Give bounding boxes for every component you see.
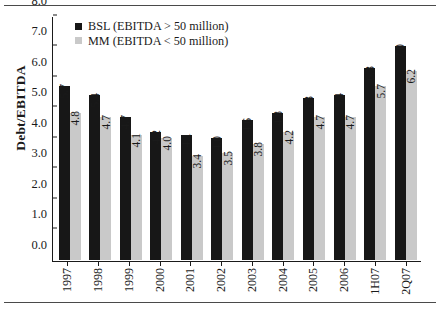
y-axis-tick-label: 6.0: [31, 54, 53, 69]
bar-value-label: 3.4: [186, 147, 197, 161]
x-axis-tick-label: 2004: [275, 268, 290, 292]
x-axis-tick: 2Q07: [390, 262, 421, 312]
x-axis-tick-mark: [375, 262, 376, 266]
x-axis-tick-mark: [283, 262, 284, 266]
bar-groups: 5.74.85.44.74.74.14.24.04.13.44.03.54.63…: [54, 17, 421, 260]
y-axis-tick-label: 0.0: [31, 237, 53, 252]
bar: 5.7: [375, 86, 386, 260]
legend-swatch-icon: [75, 23, 82, 30]
x-axis-tick-label: 1H07: [367, 268, 382, 295]
x-axis-tick-mark: [344, 262, 345, 266]
x-axis-tick-mark: [98, 262, 99, 266]
bar: 4.7: [345, 117, 356, 260]
y-axis-tick-label: 1.0: [31, 207, 53, 222]
bar-group: 5.44.7: [85, 17, 116, 260]
chart-legend: BSL (EBITDA > 50 million)MM (EBITDA < 50…: [75, 19, 228, 48]
bar-value-label: 4.7: [114, 107, 125, 121]
y-axis-tick-mark: [53, 15, 57, 16]
bar-group: 5.74.8: [54, 17, 85, 260]
x-axis-tick-mark: [160, 262, 161, 266]
bar-value-label: 5.4: [84, 86, 95, 100]
bar-value-label: 4.0: [206, 129, 217, 143]
bar-group: 4.24.0: [146, 17, 177, 260]
x-axis-tick: 1997: [52, 262, 83, 312]
legend-swatch-icon: [75, 37, 82, 44]
bar-value-label: 3.8: [247, 135, 258, 149]
x-axis-tick-mark: [252, 262, 253, 266]
x-axis-tick: 1H07: [360, 262, 391, 312]
bar: 4.0: [161, 138, 172, 260]
x-axis-tick-mark: [190, 262, 191, 266]
bar: 5.3: [303, 98, 314, 259]
bar-group: 5.34.7: [299, 17, 330, 260]
x-axis-tick-label: 2000: [152, 268, 167, 292]
y-axis-tick-label: 8.0: [31, 0, 53, 9]
bar-value-label: 5.7: [53, 77, 64, 91]
bar-group: 6.35.7: [360, 17, 391, 260]
bar: 6.2: [406, 71, 417, 260]
bar-value-label: 5.4: [328, 86, 339, 100]
bar: 3.4: [192, 156, 203, 260]
figure: Debt/EBITDA 0.01.02.03.04.05.06.07.08.0 …: [0, 0, 440, 316]
bar: 4.1: [131, 135, 142, 260]
y-axis-tick-label: 3.0: [31, 146, 53, 161]
bar: 4.7: [100, 117, 111, 260]
plot-area: 0.01.02.03.04.05.06.07.08.0 5.74.85.44.7…: [52, 17, 421, 262]
bar-group: 4.84.2: [268, 17, 299, 260]
bar: 4.8: [70, 113, 81, 259]
x-axis-tick-label: 1998: [91, 268, 106, 292]
bar-value-label: 7.0: [389, 37, 400, 51]
x-axis-tick: 1999: [114, 262, 145, 312]
bar-value-label: 6.3: [359, 59, 370, 73]
bar-value-label: 4.0: [156, 129, 167, 143]
x-axis-tick-label: 2Q07: [398, 268, 413, 295]
x-axis-tick: 2006: [329, 262, 360, 312]
x-axis: 1997199819992000200120022003200420052006…: [52, 262, 421, 312]
bar-group: 4.63.8: [238, 17, 269, 260]
bar-value-label: 6.2: [400, 62, 411, 76]
bar-value-label: 4.7: [95, 107, 106, 121]
bar-group: 4.03.5: [207, 17, 238, 260]
bar-group: 4.74.1: [115, 17, 146, 260]
x-axis-tick-label: 2005: [306, 268, 321, 292]
x-axis-tick-label: 2001: [183, 268, 198, 292]
bar-value-label: 4.1: [125, 126, 136, 140]
bar-value-label: 4.7: [309, 107, 320, 121]
x-axis-tick-mark: [129, 262, 130, 266]
x-axis-tick: 2001: [175, 262, 206, 312]
bar-group: 5.44.7: [329, 17, 360, 260]
x-axis-tick: 2003: [237, 262, 268, 312]
bar-value-label: 5.7: [370, 77, 381, 91]
y-axis-tick-label: 5.0: [31, 85, 53, 100]
x-axis-tick-label: 1997: [60, 268, 75, 292]
legend-item: MM (EBITDA < 50 million): [75, 34, 228, 49]
bar-value-label: 5.3: [298, 89, 309, 103]
bar-value-label: 4.7: [339, 107, 350, 121]
x-axis-tick-mark: [67, 262, 68, 266]
x-axis-tick-label: 2003: [244, 268, 259, 292]
bar: 6.3: [364, 68, 375, 260]
y-axis-title: Debt/EBITDA: [13, 43, 29, 173]
x-axis-tick-label: 2002: [214, 268, 229, 292]
bar: 4.2: [283, 132, 294, 260]
bar-value-label: 3.5: [217, 144, 228, 158]
x-axis-tick-mark: [406, 262, 407, 266]
bar: 3.8: [253, 144, 264, 260]
bar: 4.2: [150, 132, 161, 260]
legend-item: BSL (EBITDA > 50 million): [75, 19, 228, 34]
x-axis-tick-label: 1999: [121, 268, 136, 292]
bar-group: 7.06.2: [390, 17, 421, 260]
x-axis-tick: 2005: [298, 262, 329, 312]
bar-value-label: 4.6: [236, 110, 247, 124]
bar: 3.5: [222, 153, 233, 260]
x-axis-tick: 1998: [83, 262, 114, 312]
y-axis-tick-label: 7.0: [31, 24, 53, 39]
x-axis-tick-label: 2006: [337, 268, 352, 292]
x-axis-tick: 2002: [206, 262, 237, 312]
bar-value-label: 4.1: [175, 126, 186, 140]
legend-item-label: BSL (EBITDA > 50 million): [88, 19, 228, 34]
legend-item-label: MM (EBITDA < 50 million): [88, 34, 228, 49]
bar-value-label: 4.2: [278, 123, 289, 137]
bar-value-label: 4.8: [267, 104, 278, 118]
bar-value-label: 4.8: [64, 104, 75, 118]
